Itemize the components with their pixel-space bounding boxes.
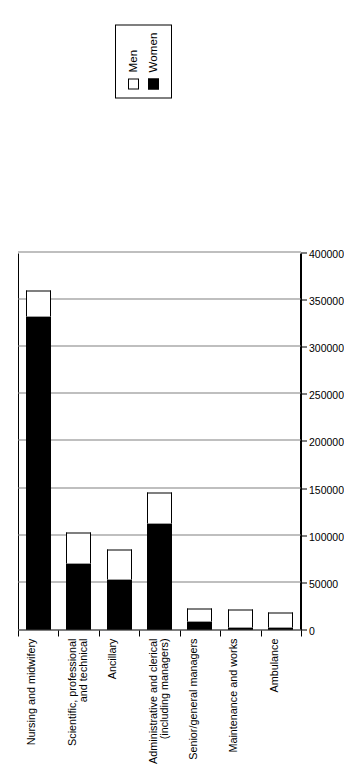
value-axis-label: 200000 [309, 437, 344, 448]
value-axis-label: 250000 [309, 389, 344, 400]
bar-segment-men [187, 608, 212, 621]
value-axis-tick [301, 441, 307, 442]
value-axis-label: 0 [309, 625, 315, 636]
category-axis-tick [220, 630, 221, 636]
category-label-4: Ancillary [107, 638, 119, 768]
legend-label-women: Women [148, 32, 159, 72]
value-axis-tick [301, 299, 307, 300]
legend-swatch-women-icon [148, 78, 159, 89]
category-axis-tick [99, 630, 100, 636]
bar-segment-women [66, 563, 91, 629]
bar-0 [268, 612, 293, 629]
category-label-6: Nursing and midwifery [26, 638, 38, 768]
category-axis-tick [139, 630, 140, 636]
bar-segment-men [147, 492, 172, 523]
value-axis-tick [301, 346, 307, 347]
bar-4 [107, 549, 132, 629]
gridline [18, 440, 301, 441]
bar-5 [66, 532, 91, 629]
bar-segment-men [26, 290, 51, 316]
bar-segment-women [26, 316, 51, 629]
legend-item-men: Men [127, 33, 140, 89]
value-axis-label: 300000 [309, 342, 344, 353]
legend-label-men: Men [128, 49, 139, 72]
plot-frame [18, 253, 301, 630]
category-axis-tick [180, 630, 181, 636]
value-axis-label: 100000 [309, 531, 344, 542]
category-label-3: Administrative and clerical (including m… [148, 638, 171, 768]
gridline [18, 487, 301, 488]
bar-segment-men [107, 549, 132, 579]
value-axis-tick [301, 582, 307, 583]
plot-frame-top-border [18, 253, 19, 629]
value-axis-label: 350000 [309, 295, 344, 306]
gridline [18, 392, 301, 393]
category-axis-tick [58, 630, 59, 636]
plot-area [18, 253, 301, 630]
value-axis-label: 50000 [309, 578, 338, 589]
category-axis-tick [18, 630, 19, 636]
bar-1 [228, 609, 253, 629]
category-axis-tick [301, 630, 302, 636]
legend-swatch-men-icon [128, 78, 139, 89]
chart-legend: Men Women [115, 24, 172, 98]
gridline [18, 251, 301, 252]
bar-segment-women [147, 523, 172, 629]
bar-6 [26, 290, 51, 629]
gridline [18, 345, 301, 346]
bar-segment-men [268, 612, 293, 627]
value-axis-tick [301, 488, 307, 489]
category-label-0: Ambulance [269, 638, 281, 768]
category-axis-tick [261, 630, 262, 636]
legend-item-women: Women [147, 33, 160, 89]
bar-segment-women [187, 621, 212, 629]
value-axis-label: 400000 [309, 248, 344, 259]
value-axis-tick [301, 535, 307, 536]
bar-segment-men [228, 609, 253, 627]
bar-segment-women [107, 579, 132, 629]
gridline [18, 298, 301, 299]
bar-2 [187, 608, 212, 629]
value-axis-tick [301, 393, 307, 394]
value-axis-label: 150000 [309, 484, 344, 495]
category-label-1: Maintenance and works [228, 638, 240, 768]
value-axis-tick [301, 252, 307, 253]
category-label-2: Senior/general managers [188, 638, 200, 768]
bar-3 [147, 492, 172, 629]
bar-segment-men [66, 532, 91, 563]
category-label-5: Scientific, professional and technical [67, 638, 90, 768]
